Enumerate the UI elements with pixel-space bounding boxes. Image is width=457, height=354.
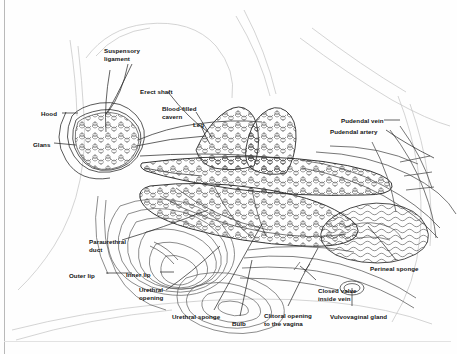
label-bulb: Bulb [232, 320, 246, 328]
label-closed-valve-inside-vein: Closed valve inside vein [318, 287, 356, 304]
label-pudendal-vein: Pudendal vein [341, 117, 384, 125]
anatomy-illustration [0, 0, 457, 354]
label-perineal-sponge: Perineal sponge [370, 265, 419, 273]
label-vulvovaginal-gland: Vulvovaginal gland [330, 313, 387, 321]
label-urethral-sponge: Urethral sponge [172, 313, 220, 321]
label-hood: Hood [41, 110, 57, 118]
label-suspensory-ligament: Suspensory ligament [104, 47, 140, 64]
label-erect-shaft: Erect shaft [140, 88, 173, 96]
label-paraurethral-duct: Paraurethral duct [89, 238, 126, 255]
label-urethral-opening: Urethral opening [139, 286, 163, 303]
label-blood-filled-cavern: Blood-filled cavern [162, 105, 197, 122]
label-glans: Glans [33, 141, 50, 149]
label-leg: Leg [193, 121, 204, 129]
label-inner-lip: Inner lip [126, 271, 151, 279]
label-clitoral-opening-to-the-vagina: Clitoral opening to the vagina [264, 312, 312, 329]
label-pudendal-artery: Pudendal artery [330, 128, 378, 136]
anatomy-figure: Suspensory ligamentErect shaftBlood-fill… [0, 0, 457, 354]
label-outer-lip: Outer lip [69, 272, 95, 280]
